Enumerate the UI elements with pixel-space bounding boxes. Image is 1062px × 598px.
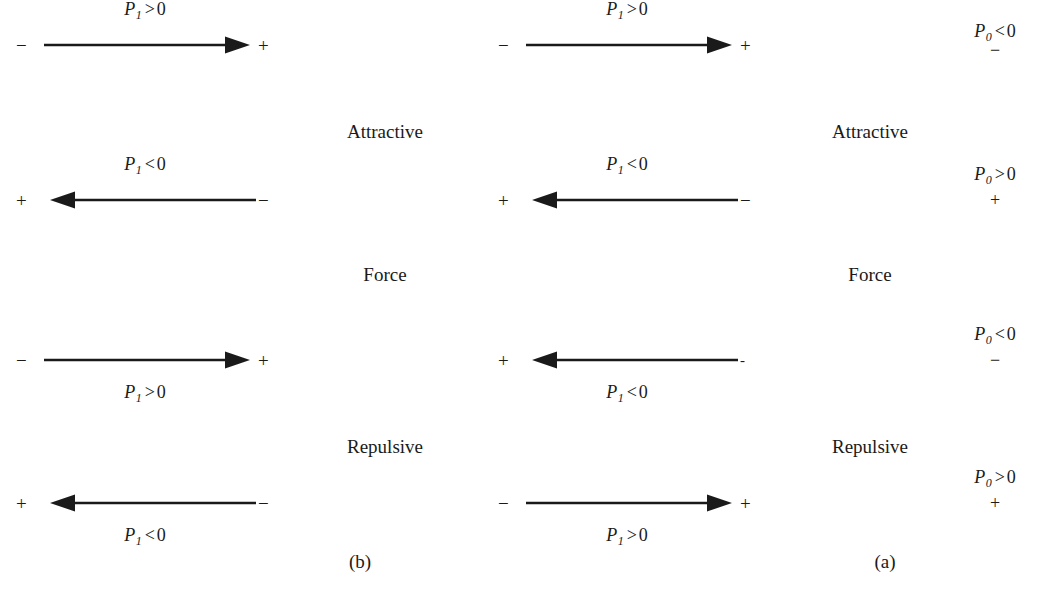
state-expression: P0>0 bbox=[930, 165, 1060, 186]
arrow-track: + − bbox=[0, 488, 290, 518]
charge-sign-left: + bbox=[498, 191, 509, 210]
arrow-row: P1>0 − + bbox=[0, 30, 290, 120]
arrow-label: P1>0 bbox=[0, 0, 290, 21]
state-label: P0>0 + bbox=[930, 468, 1060, 512]
state-charge-sign: − bbox=[930, 351, 1060, 369]
charge-sign-left: − bbox=[16, 351, 27, 370]
charge-sign-left: − bbox=[16, 36, 27, 55]
arrow-right-icon bbox=[44, 345, 256, 375]
arrow-row: − + P1>0 bbox=[0, 345, 290, 435]
charge-sign-left: − bbox=[498, 36, 509, 55]
arrow-label: P1>0 bbox=[482, 526, 772, 547]
state-label: P0<0 − bbox=[930, 22, 1060, 59]
center-label-force: Force bbox=[750, 265, 990, 284]
charge-sign-left: + bbox=[498, 351, 509, 370]
arrow-left-icon bbox=[44, 185, 256, 215]
arrow-row: P1<0 + − bbox=[0, 185, 290, 275]
arrow-track: − + bbox=[0, 30, 290, 60]
arrow-label: P1>0 bbox=[0, 383, 290, 404]
charge-sign-left: + bbox=[16, 191, 27, 210]
charge-sign-right: - bbox=[740, 353, 745, 368]
center-label-repulsive: Repulsive bbox=[265, 437, 505, 456]
arrow-row: + − P1<0 bbox=[0, 488, 290, 578]
arrow-right-icon bbox=[526, 488, 738, 518]
charge-sign-right: − bbox=[258, 191, 269, 210]
charge-sign-right: + bbox=[258, 36, 269, 55]
arrow-track: + − bbox=[0, 185, 290, 215]
charge-sign-right: − bbox=[258, 494, 269, 513]
charge-sign-left: − bbox=[498, 494, 509, 513]
arrow-label: P1<0 bbox=[482, 383, 772, 404]
arrow-label: P1<0 bbox=[0, 155, 290, 176]
arrow-track: − + bbox=[0, 345, 290, 375]
charge-sign-right: + bbox=[740, 494, 751, 513]
state-charge-sign: + bbox=[930, 191, 1060, 209]
state-expression: P0>0 bbox=[930, 468, 1060, 489]
center-label-force: Force bbox=[265, 265, 505, 284]
charge-sign-right: − bbox=[740, 191, 751, 210]
arrow-row: P1<0 + − bbox=[482, 185, 772, 275]
arrow-row: + - P1<0 bbox=[482, 345, 772, 435]
arrow-label: P1>0 bbox=[482, 0, 772, 21]
state-label: P0>0 + bbox=[930, 165, 1060, 209]
state-expression: P0<0 bbox=[930, 325, 1060, 346]
charge-sign-right: + bbox=[258, 351, 269, 370]
arrow-left-icon bbox=[44, 488, 256, 518]
center-label-attractive: Attractive bbox=[265, 122, 505, 141]
arrow-row: P1>0 − + bbox=[482, 30, 772, 120]
polarization-force-figure: P1>0 − + P1<0 + − − bbox=[0, 0, 1062, 598]
charge-sign-right: + bbox=[740, 36, 751, 55]
arrow-track: − + bbox=[482, 30, 772, 60]
arrow-left-icon bbox=[526, 345, 738, 375]
arrow-label: P1<0 bbox=[482, 155, 772, 176]
state-label: P0<0 − bbox=[930, 325, 1060, 369]
arrow-track: + - bbox=[482, 345, 772, 375]
arrow-row: − + P1>0 bbox=[482, 488, 772, 578]
center-label-attractive: Attractive bbox=[750, 122, 990, 141]
arrow-right-icon bbox=[526, 30, 738, 60]
charge-sign-left: + bbox=[16, 494, 27, 513]
center-label-repulsive: Repulsive bbox=[750, 437, 990, 456]
arrow-left-icon bbox=[526, 185, 738, 215]
arrow-track: + − bbox=[482, 185, 772, 215]
arrow-track: − + bbox=[482, 488, 772, 518]
panel-caption-b: (b) bbox=[280, 552, 440, 571]
arrow-label: P1<0 bbox=[0, 526, 290, 547]
state-charge-sign: − bbox=[930, 41, 1060, 59]
panel-caption-a: (a) bbox=[805, 552, 965, 571]
state-charge-sign: + bbox=[930, 494, 1060, 512]
arrow-right-icon bbox=[44, 30, 256, 60]
